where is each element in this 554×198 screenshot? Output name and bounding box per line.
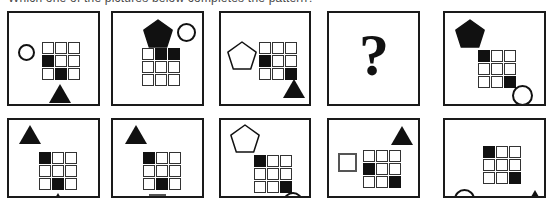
pentagon-shape (455, 19, 485, 48)
grid-cell (52, 165, 64, 177)
matrix-panel (7, 11, 100, 106)
circle-shape (512, 85, 533, 106)
grid-cell (65, 178, 77, 190)
grid-cell (42, 42, 54, 54)
pattern-grid (143, 152, 181, 190)
grid-cell (376, 163, 388, 175)
grid-cell (169, 165, 181, 177)
pattern-grid (39, 152, 77, 190)
grid-cell (478, 50, 490, 62)
grid-cell (491, 63, 503, 75)
clipped-caption: Which one of the pictures below complete… (0, 0, 554, 9)
answer-option-panel[interactable] (111, 118, 204, 198)
grid-cell (504, 50, 516, 62)
grid-cell (504, 63, 516, 75)
grid-cell (169, 178, 181, 190)
grid-cell (376, 150, 388, 162)
answer-option-panel[interactable] (327, 118, 420, 198)
grid-cell (483, 159, 495, 171)
grid-cell (363, 176, 375, 188)
pentagon-shape (143, 19, 173, 48)
triangle-shape (391, 126, 413, 145)
grid-cell (65, 165, 77, 177)
grid-cell (142, 74, 154, 86)
grid-cell (280, 168, 292, 180)
grid-cell (142, 48, 154, 60)
pentagon-shape (230, 124, 260, 153)
grid-cell (478, 63, 490, 75)
grid-cell (68, 68, 80, 80)
grid-cell (259, 55, 271, 67)
grid-cell (363, 163, 375, 175)
grid-cell (168, 74, 180, 86)
grid-cell (156, 165, 168, 177)
grid-cell (39, 152, 51, 164)
grid-cell (509, 146, 521, 158)
grid-cell (55, 42, 67, 54)
grid-cell (155, 48, 167, 60)
grid-cell (259, 68, 271, 80)
grid-cell (254, 168, 266, 180)
question-mark: ? (359, 25, 389, 85)
grid-cell (168, 61, 180, 73)
puzzle-screenshot: Which one of the pictures below complete… (0, 0, 554, 198)
matrix-panel (111, 11, 204, 106)
circle-shape (454, 189, 475, 198)
grid-cell (285, 42, 297, 54)
square-shape (149, 194, 166, 198)
grid-cell (52, 178, 64, 190)
grid-cell (42, 55, 54, 67)
grid-cell (272, 42, 284, 54)
answer-option-panel[interactable] (219, 118, 311, 198)
grid-cell (143, 152, 155, 164)
grid-cell (280, 155, 292, 167)
answer-option-panel[interactable] (443, 118, 546, 198)
grid-cell (143, 178, 155, 190)
grid-cell (272, 55, 284, 67)
grid-cell (389, 163, 401, 175)
grid-cell (363, 150, 375, 162)
pattern-grid (254, 155, 292, 193)
grid-cell (496, 146, 508, 158)
grid-cell (389, 176, 401, 188)
grid-cell (55, 68, 67, 80)
grid-cell (156, 178, 168, 190)
grid-cell (496, 172, 508, 184)
grid-cell (254, 155, 266, 167)
grid-cell (285, 55, 297, 67)
answer-options-row (0, 118, 554, 198)
triangle-shape (125, 125, 147, 144)
pattern-grid (363, 150, 401, 188)
matrix-row: ? (0, 11, 554, 107)
grid-cell (491, 50, 503, 62)
matrix-panel: ? (327, 11, 420, 106)
triangle-shape (47, 193, 69, 198)
grid-cell (267, 181, 279, 193)
grid-cell (509, 172, 521, 184)
grid-cell (376, 176, 388, 188)
grid-cell (52, 152, 64, 164)
grid-cell (267, 168, 279, 180)
grid-cell (156, 152, 168, 164)
grid-cell (254, 181, 266, 193)
triangle-shape (19, 125, 41, 144)
pattern-grid (259, 42, 297, 80)
answer-option-panel[interactable] (7, 118, 100, 198)
grid-cell (155, 61, 167, 73)
grid-cell (42, 68, 54, 80)
grid-cell (142, 61, 154, 73)
grid-cell (496, 159, 508, 171)
pattern-grid (142, 48, 180, 86)
triangle-shape (524, 190, 546, 198)
triangle-shape (49, 84, 71, 103)
caption-text: Which one of the pictures below complete… (8, 0, 314, 5)
grid-cell (504, 76, 516, 88)
circle-shape (18, 44, 35, 61)
grid-cell (39, 165, 51, 177)
grid-cell (68, 55, 80, 67)
grid-cell (491, 76, 503, 88)
grid-cell (143, 165, 155, 177)
grid-cell (483, 146, 495, 158)
matrix-panel (443, 11, 546, 106)
pattern-grid (483, 146, 521, 184)
